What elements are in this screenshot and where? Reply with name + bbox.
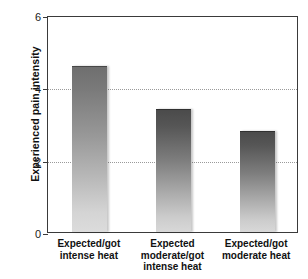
x-axis-label: Expected/gotmoderate heat bbox=[204, 238, 308, 261]
x-axis-category-labels: Expected/gotintense heatExpectedmoderate… bbox=[47, 238, 298, 279]
y-tick-label-6: 6 bbox=[35, 11, 41, 23]
plot-area: 0246 bbox=[47, 16, 298, 233]
bar-top-edge bbox=[240, 131, 275, 132]
bar-top-edge bbox=[72, 66, 107, 67]
y-tick-mark-4 bbox=[43, 89, 48, 90]
bar bbox=[72, 66, 107, 232]
y-tick-mark-0 bbox=[43, 234, 48, 235]
y-tick-label-4: 4 bbox=[35, 83, 41, 95]
y-axis-title: Experienced pain intensity bbox=[29, 4, 41, 224]
x-label-line: Expected/got bbox=[204, 238, 308, 250]
bar bbox=[156, 109, 191, 232]
y-tick-mark-2 bbox=[43, 162, 48, 163]
x-label-line: moderate heat bbox=[204, 250, 308, 262]
y-tick-label-2: 2 bbox=[35, 156, 41, 168]
bar-chart-figure: Experienced pain intensity 0246 Expected… bbox=[0, 0, 308, 279]
bar bbox=[240, 131, 275, 232]
bar-top-edge bbox=[156, 109, 191, 110]
x-label-line: intense heat bbox=[121, 261, 225, 273]
y-tick-mark-6 bbox=[43, 17, 48, 18]
